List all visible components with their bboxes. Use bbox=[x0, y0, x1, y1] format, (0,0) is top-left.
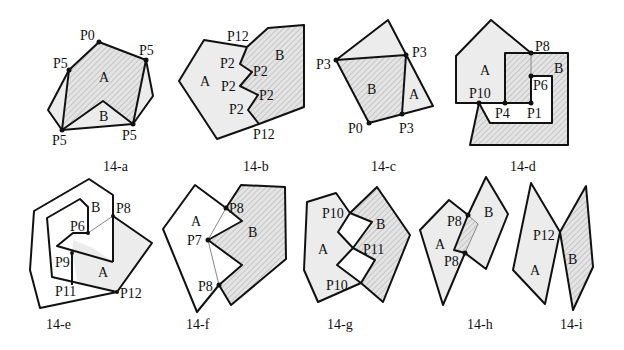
figure-caption: 14-i bbox=[560, 317, 583, 332]
region-label: A bbox=[435, 237, 446, 252]
vertex-dot bbox=[131, 122, 136, 127]
vertex-label: P8 bbox=[447, 214, 462, 229]
vertex-label: P8 bbox=[198, 279, 213, 294]
vertex-label: P10 bbox=[322, 206, 344, 221]
overlap-edge bbox=[88, 216, 113, 233]
vertex-dot bbox=[224, 206, 229, 211]
figure-caption: 14-g bbox=[327, 317, 353, 332]
region-label: A bbox=[200, 74, 211, 89]
region-label: A bbox=[530, 263, 541, 278]
vertex-label: P3 bbox=[412, 45, 427, 60]
figure-14-a: P0 P5 P5 P5 P5 A B 14-a bbox=[48, 28, 154, 174]
region-label: A bbox=[409, 87, 420, 102]
vertex-dot bbox=[111, 214, 115, 218]
vertex-label: P6 bbox=[533, 78, 548, 93]
vertex-dot bbox=[463, 251, 468, 256]
figure-14-g: P10 B A P11 P10 14-g bbox=[304, 187, 410, 332]
vertex-label: P5 bbox=[122, 128, 137, 143]
vertex-label: P9 bbox=[55, 255, 70, 270]
figure-14-d: P8 A B P6 P10 P4 P1 14-d bbox=[456, 20, 568, 174]
figure-14-f: A P8 P7 B P8 14-f bbox=[163, 185, 286, 332]
region-label: B bbox=[99, 109, 108, 124]
vertex-label: P2 bbox=[259, 88, 274, 103]
figure-caption: 14-d bbox=[510, 159, 536, 174]
vertex-dot bbox=[144, 58, 149, 63]
figure-caption: 14-c bbox=[371, 159, 396, 174]
vertex-label: P8 bbox=[535, 39, 550, 54]
polygon-overlay-diagram: P0 P5 P5 P5 P5 A B 14-a P12 P2 P2 P2 P2 … bbox=[0, 0, 624, 350]
vertex-dot bbox=[115, 290, 119, 294]
polygon-a bbox=[513, 183, 560, 304]
vertex-dot bbox=[70, 251, 74, 255]
region-label: B bbox=[248, 225, 257, 240]
vertex-label: P1 bbox=[527, 106, 542, 121]
polygon-a bbox=[402, 55, 433, 114]
figure-14-e: B P8 P6 P9 A P11 P12 14-e bbox=[30, 179, 152, 332]
region-label: B bbox=[376, 217, 385, 232]
vertex-dot bbox=[86, 231, 90, 235]
figure-caption: 14-a bbox=[103, 159, 129, 174]
vertex-label: P7 bbox=[187, 233, 202, 248]
vertex-dot bbox=[466, 213, 471, 218]
region-label: B bbox=[367, 82, 376, 97]
vertex-label: P8 bbox=[229, 201, 244, 216]
region-label: B bbox=[91, 200, 100, 215]
vertex-dot bbox=[400, 112, 405, 117]
region-label: B bbox=[484, 205, 493, 220]
vertex-label: P6 bbox=[70, 219, 85, 234]
vertex-label: P11 bbox=[363, 242, 384, 257]
region-label: B bbox=[568, 252, 577, 267]
region-label: A bbox=[480, 63, 491, 78]
vertex-label: P5 bbox=[53, 56, 68, 71]
figure-14-c: P3 P3 P0 P3 B A 14-c bbox=[316, 20, 433, 174]
vertex-dot bbox=[334, 58, 339, 63]
vertex-label: P2 bbox=[220, 56, 235, 71]
figure-14-h: P8 B A P8 14-h bbox=[420, 177, 508, 332]
vertex-label: P8 bbox=[444, 254, 459, 269]
vertex-dot bbox=[477, 101, 482, 106]
polygon-a-outline bbox=[163, 185, 226, 312]
region-label: A bbox=[98, 265, 109, 280]
figure-caption: 14-e bbox=[46, 317, 71, 332]
vertex-label: P5 bbox=[52, 133, 67, 148]
polygon-a bbox=[336, 20, 406, 60]
vertex-label: P2 bbox=[229, 102, 244, 117]
vertex-dot bbox=[529, 101, 534, 106]
vertex-label: P5 bbox=[139, 43, 154, 58]
figure-14-i: P12 A B 14-i bbox=[513, 183, 593, 332]
vertex-label: P10 bbox=[469, 86, 491, 101]
vertex-label: P10 bbox=[326, 278, 348, 293]
vertex-dot bbox=[97, 40, 102, 45]
figure-caption: 14-f bbox=[186, 317, 210, 332]
region-label: B bbox=[554, 61, 563, 76]
vertex-dot bbox=[529, 51, 534, 56]
vertex-label: P12 bbox=[533, 228, 555, 243]
vertex-label: P12 bbox=[253, 127, 275, 142]
vertex-label: P4 bbox=[495, 106, 510, 121]
figure-caption: 14-b bbox=[243, 159, 269, 174]
vertex-label: P8 bbox=[116, 201, 131, 216]
region-label: A bbox=[191, 214, 202, 229]
vertex-dot bbox=[404, 53, 409, 58]
vertex-label: P0 bbox=[80, 28, 95, 43]
vertex-dot bbox=[367, 121, 372, 126]
vertex-label: P2 bbox=[253, 64, 268, 79]
vertex-label: P11 bbox=[55, 284, 76, 299]
vertex-dot bbox=[60, 128, 65, 133]
vertex-label: P3 bbox=[399, 121, 414, 136]
vertex-dot bbox=[217, 283, 222, 288]
region-label: B bbox=[275, 48, 284, 63]
region-label: A bbox=[99, 70, 110, 85]
region-label: A bbox=[318, 242, 329, 257]
vertex-dot bbox=[206, 238, 211, 243]
figure-caption: 14-h bbox=[467, 317, 493, 332]
vertex-label: P2 bbox=[221, 79, 236, 94]
vertex-label: P12 bbox=[227, 29, 249, 44]
vertex-label: P12 bbox=[120, 286, 142, 301]
vertex-label: P0 bbox=[348, 121, 363, 136]
vertex-label: P3 bbox=[316, 57, 331, 72]
figure-14-b: P12 P2 P2 P2 P2 P2 P12 A B 14-b bbox=[179, 25, 304, 174]
vertex-dot bbox=[503, 101, 508, 106]
